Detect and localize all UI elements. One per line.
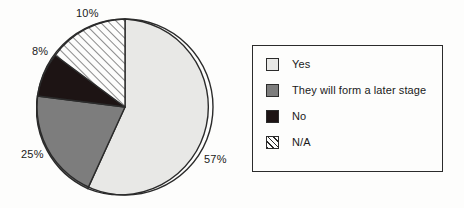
legend-label-later-stage: They will form a later stage [292,84,426,96]
legend-item-na: N/A [266,135,426,149]
legend-item-later-stage: They will form a later stage [266,83,426,97]
legend-item-no: No [266,109,426,123]
legend-box: Yes They will form a later stage No N/A [252,45,443,172]
legend-label-no: No [292,110,306,122]
legend-items: Yes They will form a later stage No N/A [266,57,426,149]
legend-swatch-yes [266,58,279,71]
pie-chart [36,18,214,196]
legend-swatch-na [266,136,279,149]
legend-item-yes: Yes [266,57,426,71]
pie-chart-svg [36,18,214,196]
pie-label-na: 10% [76,7,99,19]
pie-label-later-stage: 25% [21,148,44,160]
legend-swatch-later-stage [266,84,279,97]
legend-label-yes: Yes [292,58,310,70]
pie-label-yes: 57% [204,153,227,165]
pie-label-no: 8% [32,45,48,57]
pie-chart-figure: 10% 8% 25% 57% Yes They will form a late… [0,0,464,208]
legend-swatch-no [266,110,279,123]
legend-label-na: N/A [292,136,311,148]
